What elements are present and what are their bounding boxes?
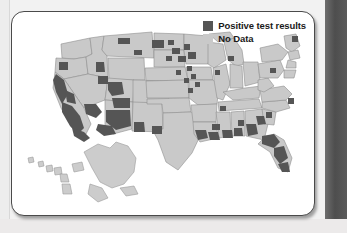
map-inset-alaska <box>72 142 138 202</box>
page-left-gutter <box>0 0 10 233</box>
legend-label-positive: Positive test results <box>218 20 306 31</box>
legend-label-nodata: No Data <box>218 33 253 44</box>
page-right-edge-band <box>325 0 347 233</box>
legend-swatch-nodata-icon <box>203 34 213 44</box>
legend-item-positive: Positive test results <box>203 20 306 31</box>
map-inset-hawaii <box>28 157 72 194</box>
map-legend: Positive test results No Data <box>203 20 306 46</box>
map-figure-card: Positive test results No Data <box>11 11 315 216</box>
legend-item-nodata: No Data <box>203 33 306 44</box>
legend-swatch-positive-icon <box>203 21 213 31</box>
page-bottom-strip <box>0 219 347 233</box>
